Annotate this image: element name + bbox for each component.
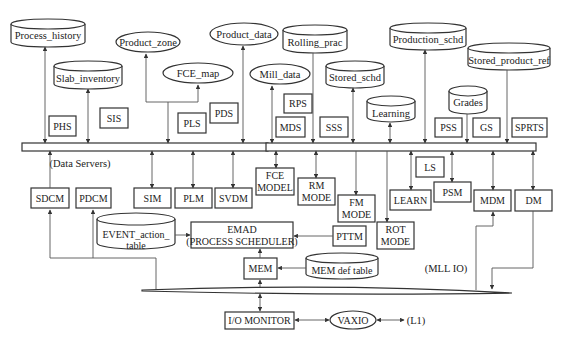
sss-server: SSS — [320, 117, 348, 137]
svg-text:Process_history: Process_history — [15, 30, 82, 41]
svg-text:RM: RM — [309, 180, 325, 191]
svg-text:SIM: SIM — [144, 193, 162, 204]
pls-server: PLS — [178, 113, 206, 133]
l1-label: (L1) — [407, 315, 426, 327]
svg-text:table: table — [126, 240, 146, 251]
rot-mode-module: ROT MODE — [377, 222, 414, 249]
svg-text:PSM: PSM — [442, 187, 462, 198]
architecture-diagram: (Data Servers) Process_history Slab_inve… — [0, 0, 567, 348]
fm-mode-module: FM MODE — [338, 195, 375, 222]
svg-text:SIS: SIS — [107, 113, 121, 124]
sprts-server: SPRTS — [512, 118, 547, 137]
data-servers-label: (Data Servers) — [50, 158, 111, 170]
svg-text:FCE: FCE — [266, 170, 284, 181]
fce-map-node: FCE_map — [163, 63, 233, 83]
grades-db: Grades — [449, 86, 487, 114]
svg-text:PDS: PDS — [215, 108, 233, 119]
svg-text:GS: GS — [480, 122, 493, 133]
stored-product-ref-db: Stored_product_ref — [468, 43, 550, 70]
sdcm-pdcm-return — [50, 258, 156, 290]
event-action-table-db: EVENT_action_ table — [97, 213, 175, 251]
svg-text:MODE: MODE — [302, 192, 331, 203]
svg-text:PSS: PSS — [440, 122, 457, 133]
svg-text:Production_schd: Production_schd — [393, 34, 464, 45]
emad-process-scheduler: EMAD (PROCESS SCHEDULER) — [186, 222, 297, 248]
rm-mode-module: RM MODE — [298, 178, 335, 205]
slab-inventory-db: Slab_inventory — [54, 61, 122, 89]
svg-text:SVDM: SVDM — [219, 193, 248, 204]
svg-text:RPS: RPS — [289, 98, 307, 109]
svg-text:EMAD: EMAD — [227, 224, 256, 235]
svg-text:PLS: PLS — [183, 118, 200, 129]
svg-text:PDCM: PDCM — [79, 193, 107, 204]
svg-text:MDM: MDM — [480, 195, 505, 206]
dm-mll-link — [492, 211, 533, 289]
svg-text:MODEL: MODEL — [257, 182, 293, 193]
data-servers-bus-right — [266, 143, 536, 151]
svg-text:FM: FM — [349, 197, 364, 208]
svg-text:Grades: Grades — [453, 97, 483, 108]
mds-server: MDS — [276, 117, 305, 137]
svg-text:Stored_schd: Stored_schd — [329, 72, 382, 83]
svg-text:VAXIO: VAXIO — [338, 315, 369, 326]
svg-text:ROT: ROT — [386, 224, 406, 235]
psm-module: PSM — [434, 182, 471, 202]
gs-server: GS — [473, 118, 500, 137]
svg-text:PHS: PHS — [53, 121, 71, 132]
svg-text:I/O MONITOR: I/O MONITOR — [228, 315, 291, 326]
svg-text:Rolling_prac: Rolling_prac — [288, 37, 343, 48]
pttm-module: PTTM — [333, 226, 366, 246]
svg-text:PTTM: PTTM — [336, 231, 363, 242]
svg-text:FCE_map: FCE_map — [177, 68, 220, 79]
svg-text:MODE: MODE — [342, 209, 371, 220]
mdm-module: MDM — [474, 190, 511, 211]
svg-text:Mill_data: Mill_data — [260, 69, 301, 80]
production-schd-db: Production_schd — [390, 23, 466, 50]
svg-text:SDCM: SDCM — [36, 193, 64, 204]
sim-module: SIM — [134, 188, 171, 208]
svg-text:MODE: MODE — [381, 236, 410, 247]
svg-text:Slab_inventory: Slab_inventory — [56, 73, 121, 84]
sdcm-module: SDCM — [31, 188, 69, 208]
fce-model-module: FCE MODEL — [256, 168, 294, 195]
plm-module: PLM — [175, 188, 212, 208]
vaxio-node: VAXIO — [330, 311, 376, 329]
svg-text:SSS: SSS — [326, 122, 343, 133]
product-data-node: Product_data — [210, 23, 278, 45]
phs-server: PHS — [49, 116, 76, 136]
io-monitor-module: I/O MONITOR — [225, 312, 294, 329]
svg-text:MEM: MEM — [249, 263, 273, 274]
mem-def-table-db: MEM def table — [306, 253, 378, 279]
learn-module: LEARN — [390, 190, 431, 210]
svg-text:PLM: PLM — [183, 193, 204, 204]
stored-schd-db: Stored_schd — [326, 61, 384, 88]
svg-text:LS: LS — [424, 162, 436, 173]
mll-io-label: (MLL IO) — [425, 263, 468, 275]
svg-text:(PROCESS SCHEDULER): (PROCESS SCHEDULER) — [186, 236, 297, 248]
svg-text:Product_data: Product_data — [216, 29, 272, 40]
mdm-mll-link — [476, 212, 493, 290]
pdcm-module: PDCM — [76, 188, 111, 208]
dm-module: DM — [515, 190, 552, 211]
learning-db: Learning — [367, 96, 415, 122]
svg-text:Learning: Learning — [372, 108, 411, 119]
mem-module: MEM — [244, 258, 277, 279]
data-servers-bus — [22, 143, 268, 151]
product-zone-node: Product_zone — [116, 32, 180, 52]
svg-text:MEM def table: MEM def table — [311, 265, 373, 276]
rps-server: RPS — [284, 94, 312, 113]
svg-text:Product_zone: Product_zone — [119, 37, 177, 48]
svg-text:EVENT_action_: EVENT_action_ — [102, 229, 170, 240]
mll-io-bus — [142, 287, 512, 294]
svg-text:MDS: MDS — [280, 122, 302, 133]
process-history-db: Process_history — [11, 19, 85, 47]
svdm-module: SVDM — [215, 188, 252, 208]
svg-text:SPRTS: SPRTS — [515, 122, 544, 133]
sis-server: SIS — [100, 108, 128, 128]
svg-text:LEARN: LEARN — [394, 195, 427, 206]
mill-data-node: Mill_data — [250, 64, 310, 84]
svg-text:DM: DM — [525, 195, 541, 206]
pss-server: PSS — [435, 118, 462, 137]
pds-server: PDS — [210, 103, 238, 123]
ls-module: LS — [416, 157, 444, 177]
